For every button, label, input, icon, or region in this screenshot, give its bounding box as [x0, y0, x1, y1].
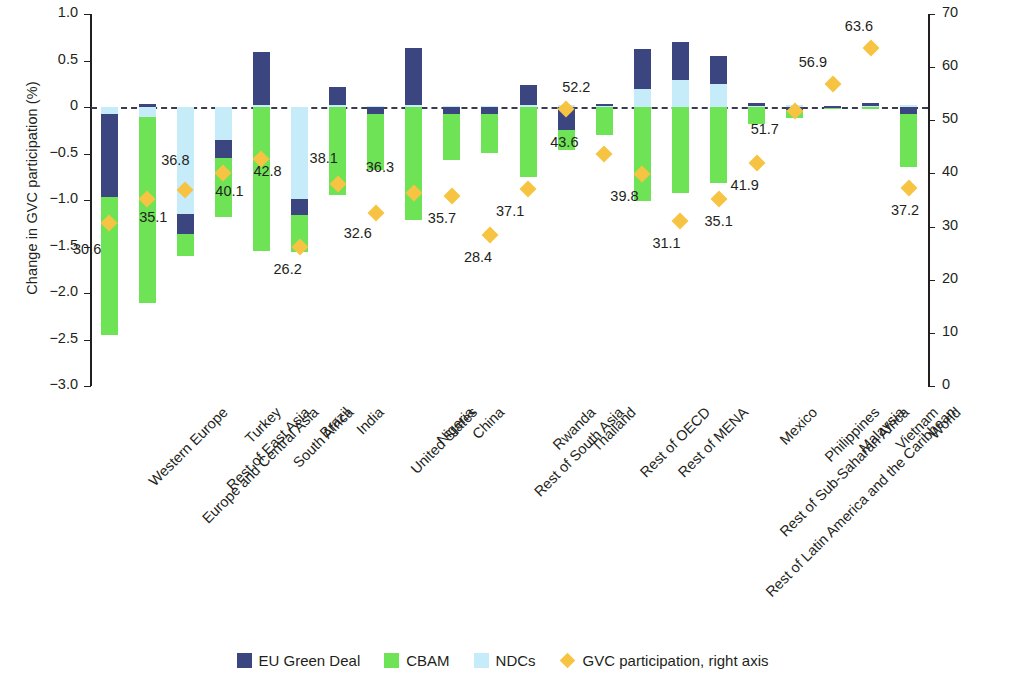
- chart-legend: EU Green DealCBAMNDCsGVC participation, …: [0, 652, 1029, 669]
- left-tick-mark: [84, 340, 91, 341]
- gvc-value-label: 40.1: [215, 183, 243, 199]
- left-tick-mark: [84, 200, 91, 201]
- swatch-icon: [237, 653, 252, 668]
- legend-item[interactable]: NDCs: [474, 652, 536, 669]
- right-tick-mark: [928, 120, 935, 121]
- legend-item[interactable]: CBAM: [384, 652, 449, 669]
- gvc-value-label: 36.8: [161, 152, 189, 168]
- bar-segment: [862, 107, 879, 109]
- gvc-marker: [710, 191, 727, 208]
- left-tick-label: −0.5: [10, 144, 78, 160]
- bar-segment: [253, 52, 270, 105]
- gvc-marker: [596, 146, 613, 163]
- gvc-marker: [824, 75, 841, 92]
- left-tick-mark: [84, 386, 91, 387]
- bar-segment: [367, 107, 384, 114]
- right-tick-label: 40: [942, 163, 982, 179]
- gvc-value-label: 42.8: [253, 163, 281, 179]
- bar-segment: [710, 56, 727, 84]
- x-axis-label: Mexico: [776, 404, 820, 448]
- bar-segment: [139, 104, 156, 107]
- bar-segment: [710, 107, 727, 183]
- legend-item[interactable]: GVC participation, right axis: [560, 652, 769, 669]
- bar-segment: [520, 85, 537, 105]
- x-axis-label: India: [353, 404, 387, 438]
- bar-segment: [900, 114, 917, 168]
- bar-segment: [443, 114, 460, 160]
- bar-segment: [215, 107, 232, 140]
- gvc-value-label: 41.9: [731, 177, 759, 193]
- gvc-participation-chart: Change in GVC participation (%) GVC part…: [0, 0, 1029, 681]
- x-axis-label: Rest of MENA: [675, 404, 751, 480]
- bar-segment: [177, 214, 194, 234]
- right-tick-mark: [928, 333, 935, 334]
- bar-segment: [177, 234, 194, 255]
- bar-segment: [139, 107, 156, 117]
- gvc-value-label: 52.2: [562, 79, 590, 95]
- left-tick-mark: [84, 154, 91, 155]
- bar-segment: [672, 42, 689, 80]
- legend-label: NDCs: [496, 652, 536, 669]
- bar-segment: [291, 107, 308, 199]
- swatch-icon: [384, 653, 399, 668]
- gvc-marker: [443, 188, 460, 205]
- bar-segment: [215, 140, 232, 158]
- gvc-value-label: 56.9: [799, 54, 827, 70]
- left-tick-label: −3.0: [10, 376, 78, 392]
- gvc-value-label: 39.8: [610, 188, 638, 204]
- gvc-marker: [672, 212, 689, 229]
- bar-segment: [748, 103, 765, 106]
- gvc-value-label: 37.2: [891, 202, 919, 218]
- left-tick-label: −2.0: [10, 283, 78, 299]
- bar-segment: [862, 103, 879, 106]
- gvc-marker: [520, 180, 537, 197]
- left-tick-label: −2.5: [10, 330, 78, 346]
- right-tick-label: 0: [942, 376, 982, 392]
- left-tick-mark: [84, 14, 91, 15]
- bar-segment: [329, 87, 346, 105]
- right-tick-label: 60: [942, 57, 982, 73]
- right-tick-label: 10: [942, 323, 982, 339]
- gvc-value-label: 51.7: [751, 121, 779, 137]
- bar-segment: [596, 107, 613, 135]
- legend-label: GVC participation, right axis: [583, 652, 769, 669]
- legend-item[interactable]: EU Green Deal: [237, 652, 361, 669]
- left-tick-label: 0.5: [10, 51, 78, 67]
- left-tick-label: −1.0: [10, 190, 78, 206]
- bar-segment: [253, 107, 270, 251]
- legend-label: EU Green Deal: [259, 652, 361, 669]
- left-tick-mark: [84, 107, 91, 108]
- gvc-value-label: 37.1: [496, 203, 524, 219]
- left-tick-mark: [84, 61, 91, 62]
- gvc-marker: [900, 180, 917, 197]
- bar-segment: [824, 108, 841, 110]
- bar-segment: [405, 107, 422, 220]
- bar-segment: [634, 89, 651, 107]
- bar-segment: [291, 199, 308, 215]
- left-tick-label: 0: [10, 97, 78, 113]
- gvc-marker: [862, 40, 879, 57]
- bar-segment: [634, 107, 651, 201]
- right-axis-line: [928, 14, 930, 386]
- gvc-value-label: 26.2: [274, 261, 302, 277]
- right-tick-label: 20: [942, 270, 982, 286]
- swatch-icon: [474, 653, 489, 668]
- right-tick-label: 30: [942, 217, 982, 233]
- left-tick-mark: [84, 293, 91, 294]
- right-tick-mark: [928, 14, 935, 15]
- bar-segment: [481, 107, 498, 114]
- gvc-value-label: 35.1: [139, 209, 167, 225]
- bar-segment: [596, 104, 613, 106]
- diamond-icon: [559, 653, 575, 669]
- gvc-value-label: 28.4: [464, 249, 492, 265]
- gvc-value-label: 63.6: [845, 18, 873, 34]
- bar-segment: [101, 114, 118, 198]
- gvc-value-label: 43.6: [550, 134, 578, 150]
- right-tick-mark: [928, 280, 935, 281]
- right-tick-label: 70: [942, 4, 982, 20]
- bar-segment: [405, 48, 422, 105]
- bar-segment: [672, 107, 689, 193]
- x-axis-label: Western Europe: [146, 404, 231, 489]
- bar-segment: [634, 49, 651, 89]
- right-tick-mark: [928, 386, 935, 387]
